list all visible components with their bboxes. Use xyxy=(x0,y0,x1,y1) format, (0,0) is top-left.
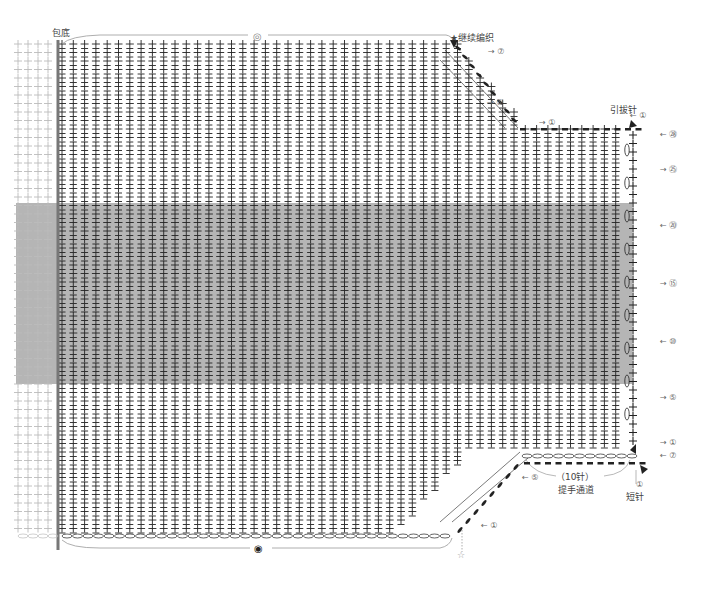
crochet-chart xyxy=(0,0,710,594)
stitch-count-label: （10针） xyxy=(556,473,594,482)
row-marker: → ① xyxy=(660,439,676,447)
row-marker: → ⑤ xyxy=(487,99,503,107)
row-marker: ← ⑤ xyxy=(522,474,538,482)
start-marker-bottom: ◉ xyxy=(254,544,263,554)
bottom-edge-label: 包底 xyxy=(52,29,70,38)
continue-label: ★继续编织 xyxy=(450,34,494,43)
row-marker: ← ① xyxy=(481,522,497,530)
single-crochet-label: 短针 xyxy=(626,493,644,502)
handle-gap-label: 提手通道 xyxy=(558,486,594,495)
row-marker: → ① xyxy=(539,119,555,127)
row-marker: → ⑤ xyxy=(660,394,676,402)
row-marker: ① xyxy=(636,481,643,489)
star-open-marker: ☆ xyxy=(457,551,465,560)
row-marker: → ㉕ xyxy=(660,166,677,174)
row-marker: ← ① xyxy=(630,112,646,120)
row-marker: ← ⑳ xyxy=(660,222,677,230)
row-marker: ← ㉘ xyxy=(660,131,677,139)
row-marker: ← ⑦ xyxy=(660,452,676,460)
row-marker: ← ⑩ xyxy=(660,338,676,346)
start-marker-top: ◎ xyxy=(253,32,262,42)
row-marker: → ⑮ xyxy=(660,280,677,288)
row-marker: → ⑦ xyxy=(488,48,504,56)
